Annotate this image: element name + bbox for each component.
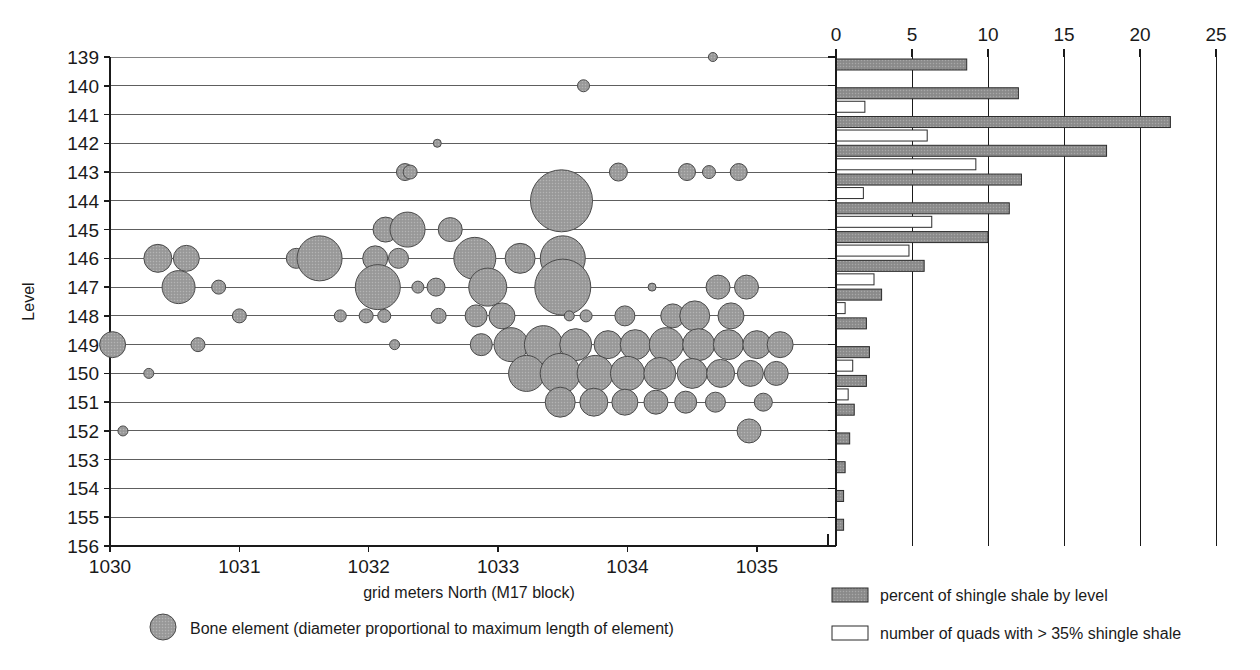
bar-gridlines: 0510152025 — [831, 24, 1227, 546]
bubble-point — [678, 164, 695, 181]
bar-percent-shingle-shale — [836, 318, 866, 329]
bubble-point — [359, 309, 373, 323]
bar-legend: percent of shingle shale by levelnumber … — [832, 587, 1181, 642]
scatter-y-tick-label: 146 — [67, 248, 99, 269]
bar-percent-shingle-shale — [836, 490, 844, 501]
bubble-point — [427, 278, 445, 296]
bubble-point — [580, 310, 592, 322]
bar-x-tick-label: 5 — [907, 24, 918, 45]
scatter-y-tick-label: 154 — [67, 478, 99, 499]
bar-x-tick-label: 15 — [1053, 24, 1074, 45]
bubble-point — [545, 387, 575, 417]
bubble-point — [577, 355, 613, 391]
scatter-y-tick-label: 151 — [67, 392, 99, 413]
bubble-marker-icon — [150, 614, 176, 640]
bubble-point — [469, 268, 507, 306]
figure-root: 1391401411421431441451461471481491501511… — [0, 0, 1260, 670]
bubble-point — [683, 329, 715, 361]
scatter-y-tick-label: 155 — [67, 507, 99, 528]
bubble-point — [470, 334, 492, 356]
scatter-x-tick-label: 1034 — [606, 556, 649, 577]
bar-quad-count — [836, 188, 863, 199]
scatter-x-tick-label: 1030 — [89, 556, 131, 577]
scatter-x-tick-label: 1031 — [218, 556, 260, 577]
bubble-point — [737, 360, 763, 386]
scatter-x-axis-title: grid meters North (M17 block) — [363, 584, 575, 601]
bar-percent-shingle-shale — [836, 375, 866, 386]
bubble-point — [764, 361, 788, 385]
bubble-point — [505, 243, 535, 273]
bubble-point — [707, 359, 735, 387]
scatter-y-tick-label: 148 — [67, 306, 99, 327]
bar-x-tick-label: 25 — [1205, 24, 1226, 45]
bubble-point — [677, 358, 707, 388]
bubble-point — [297, 236, 342, 281]
bubble-point — [594, 331, 622, 359]
scatter-y-tick-label: 147 — [67, 277, 99, 298]
bar-percent-shingle-shale — [836, 145, 1107, 156]
bubble-point — [718, 303, 744, 329]
bubble-point — [648, 283, 656, 291]
bubble-point — [620, 330, 650, 360]
bubble-point — [431, 308, 446, 323]
bar-percent-shingle-shale — [836, 203, 1009, 214]
bubble-point — [438, 218, 462, 242]
scatter-y-tick-label: 143 — [67, 162, 99, 183]
bubble-point — [644, 357, 676, 389]
bubble-point — [535, 259, 591, 315]
bubble-point — [144, 368, 154, 378]
bubble-point — [334, 310, 346, 322]
bubble-point — [615, 306, 635, 326]
bubble-point — [232, 309, 246, 323]
scatter-y-tick-label: 153 — [67, 450, 99, 471]
scatter-y-tick-label: 145 — [67, 220, 99, 241]
bar-x-tick-label: 20 — [1129, 24, 1150, 45]
scatter-x-tick-label: 1032 — [348, 556, 390, 577]
bubble-point — [713, 330, 743, 360]
bubble-point — [706, 275, 730, 299]
scatter-x-tick-label: 1035 — [736, 556, 778, 577]
scatter-y-ticks: 1391401411421431441451461471481491501511… — [67, 47, 110, 557]
bubble-point — [403, 165, 417, 179]
bar-legend-label: percent of shingle shale by level — [880, 587, 1108, 604]
bar-percent-shingle-shale — [836, 433, 850, 444]
bar-level-ticks — [828, 57, 836, 546]
bubble-point — [191, 338, 205, 352]
bubble-point — [509, 355, 545, 391]
filled-gray-swatch-icon — [832, 588, 868, 602]
bubble-series — [100, 53, 794, 443]
bar-percent-shingle-shale — [836, 174, 1021, 185]
bubble-point — [378, 309, 391, 322]
bubble-point — [708, 53, 717, 62]
bar-legend-label: number of quads with > 35% shingle shale — [880, 625, 1181, 642]
bubble-point — [388, 248, 408, 268]
scatter-y-tick-label: 149 — [67, 335, 99, 356]
bubble-point — [705, 392, 725, 412]
bubble-point — [649, 328, 683, 362]
scatter-y-axis-title: Level — [20, 282, 37, 320]
bar-percent-shingle-shale — [836, 88, 1018, 99]
bar-series-group — [836, 59, 1170, 530]
scatter-y-tick-label: 141 — [67, 105, 99, 126]
bar-quad-count — [836, 130, 927, 141]
scatter-x-tick-label: 1033 — [477, 556, 519, 577]
horizontal-bar-panel: 0510152025percent of shingle shale by le… — [810, 0, 1260, 670]
bubble-point — [737, 419, 761, 443]
bar-percent-shingle-shale — [836, 232, 988, 243]
bubble-point — [144, 244, 172, 272]
bubble-point — [412, 281, 424, 293]
scatter-legend-label: Bone element (diameter proportional to m… — [190, 620, 674, 637]
bubble-point — [564, 311, 574, 321]
bar-quad-count — [836, 245, 909, 256]
bar-x-tick-label: 0 — [831, 24, 842, 45]
bar-quad-count — [836, 360, 853, 371]
scatter-y-tick-label: 152 — [67, 421, 99, 442]
bar-percent-shingle-shale — [836, 404, 854, 415]
bar-quad-count — [836, 303, 845, 314]
bubble-point — [612, 389, 638, 415]
bubble-point — [730, 164, 747, 181]
bar-quad-count — [836, 159, 976, 170]
scatter-y-tick-label: 140 — [67, 76, 99, 97]
bubble-point — [675, 391, 697, 413]
bubble-point — [489, 303, 515, 329]
